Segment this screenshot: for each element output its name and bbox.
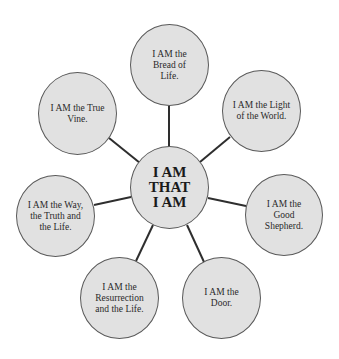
i-am-diagram: I AM the Bread of Life. I AM the Light o…: [0, 0, 339, 359]
node-label: I AM the Light of the World.: [223, 100, 300, 122]
connector-light: [200, 137, 230, 162]
node-door: I AM the Door.: [182, 257, 261, 339]
connector-resurrection: [136, 225, 153, 261]
center-line-1: I AM: [149, 165, 190, 180]
connector-vine: [109, 138, 140, 163]
node-good-shepherd: I AM the Good Shepherd.: [245, 174, 323, 256]
node-label: I AM the Resurrection and the Life.: [81, 282, 158, 315]
center-line-2: THAT: [149, 180, 190, 195]
node-label: I AM the True Vine.: [39, 103, 116, 125]
node-light-of-the-world: I AM the Light of the World.: [222, 70, 301, 152]
connector-shepherd: [208, 198, 246, 206]
center-label: I AM THAT I AM: [143, 165, 196, 210]
center-line-3: I AM: [149, 195, 190, 210]
node-bread-of-life: I AM the Bread of Life.: [130, 24, 209, 106]
node-resurrection-and-life: I AM the Resurrection and the Life.: [80, 257, 159, 339]
node-true-vine: I AM the True Vine.: [38, 72, 117, 155]
node-way-truth-life: I AM the Way, the Truth and the Life.: [16, 175, 95, 257]
node-center-i-am-that-i-am: I AM THAT I AM: [130, 146, 209, 229]
connector-way: [94, 197, 131, 205]
connector-door: [187, 225, 204, 262]
node-label: I AM the Door.: [183, 287, 260, 309]
node-label: I AM the Way, the Truth and the Life.: [17, 200, 94, 233]
node-label: I AM the Bread of Life.: [131, 49, 208, 82]
node-label: I AM the Good Shepherd.: [246, 199, 322, 232]
